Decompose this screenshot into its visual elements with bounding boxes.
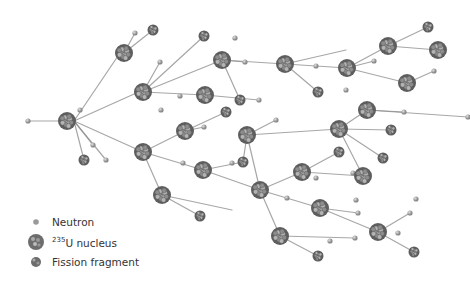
neutron — [395, 230, 400, 235]
neutron-path — [74, 121, 143, 152]
neutron-path — [143, 36, 204, 92]
uranium-nucleus — [369, 223, 387, 241]
uranium-nucleus — [276, 55, 294, 73]
uranium-nucleus — [176, 122, 194, 140]
neutron-path — [143, 92, 205, 95]
neutron-path — [260, 190, 320, 208]
fission-fragment — [423, 22, 434, 33]
neutron — [25, 118, 30, 123]
neutron — [132, 30, 137, 35]
uranium-nucleus — [134, 143, 152, 161]
neutron — [158, 107, 163, 112]
neutron-path — [285, 50, 346, 64]
fission-fragment — [409, 247, 420, 258]
uranium-nucleus — [311, 199, 329, 217]
neutron — [201, 124, 206, 129]
fission-fragment — [199, 31, 210, 42]
fission-fragment — [313, 251, 324, 262]
neutron — [90, 142, 95, 147]
uranium-nucleus — [115, 44, 133, 62]
neutron — [352, 235, 357, 240]
fission-fragment — [221, 107, 232, 118]
neutron — [465, 114, 470, 119]
neutron — [413, 196, 418, 201]
fission-fragment — [148, 25, 159, 36]
neutron-path — [143, 60, 222, 92]
neutron — [284, 195, 289, 200]
neutron — [431, 68, 436, 73]
neutron — [371, 58, 376, 63]
uranium-nucleus — [134, 83, 152, 101]
neutron — [242, 59, 247, 64]
fission-fragment — [79, 155, 90, 166]
legend-neutron: Neutron — [26, 212, 139, 232]
uranium-nucleus — [398, 74, 416, 92]
uranium-nucleus — [379, 37, 397, 55]
neutron — [343, 87, 348, 92]
neutron-path — [162, 195, 232, 210]
legend: Neutron 235U nucleus Fission fragment — [26, 212, 139, 272]
uranium-nucleus — [293, 163, 311, 181]
neutron — [77, 107, 82, 112]
legend-fragment-label: Fission fragment — [52, 256, 139, 268]
uranium-nucleus — [58, 112, 76, 130]
neutron — [327, 238, 332, 243]
neutron-icon — [26, 218, 46, 226]
fission-fragment — [334, 147, 345, 158]
neutron — [229, 160, 234, 165]
neutron-path — [203, 170, 260, 190]
uranium-nucleus — [354, 167, 372, 185]
neutron — [256, 97, 261, 102]
fission-fragment — [195, 211, 206, 222]
neutron — [157, 59, 162, 64]
legend-fragment: Fission fragment — [26, 252, 139, 272]
neutron — [407, 210, 412, 215]
neutron-path — [280, 236, 355, 238]
neutron — [273, 117, 278, 122]
neutron — [180, 160, 185, 165]
uranium-nucleus — [251, 181, 269, 199]
fission-fragment — [238, 157, 249, 168]
neutron — [313, 63, 318, 68]
uranium-nucleus — [153, 186, 171, 204]
neutron-path — [367, 110, 468, 117]
legend-neutron-label: Neutron — [52, 216, 94, 228]
fission-fragment — [235, 95, 246, 106]
uranium-nucleus — [338, 59, 356, 77]
legend-nucleus: 235U nucleus — [26, 232, 139, 252]
neutron — [103, 157, 108, 162]
uranium-nucleus-icon — [26, 233, 46, 251]
fission-fragment — [378, 153, 389, 164]
neutron — [355, 210, 360, 215]
legend-nucleus-label: 235U nucleus — [52, 236, 117, 249]
uranium-nucleus — [194, 161, 212, 179]
uranium-nucleus — [196, 86, 214, 104]
neutron-path — [143, 152, 203, 170]
fission-fragment — [313, 87, 324, 98]
uranium-nucleus — [330, 120, 348, 138]
neutron-path — [247, 129, 339, 135]
fission-fragment-icon — [26, 256, 46, 268]
neutron — [232, 35, 237, 40]
neutron — [353, 197, 358, 202]
uranium-nucleus — [358, 101, 376, 119]
neutron — [177, 93, 182, 98]
uranium-nucleus — [213, 51, 231, 69]
uranium-nucleus — [238, 126, 256, 144]
neutron-path — [347, 68, 407, 83]
neutron — [401, 109, 406, 114]
fission-fragment — [386, 125, 397, 136]
neutron — [313, 175, 318, 180]
uranium-nucleus — [429, 41, 447, 59]
uranium-nucleus — [271, 227, 289, 245]
